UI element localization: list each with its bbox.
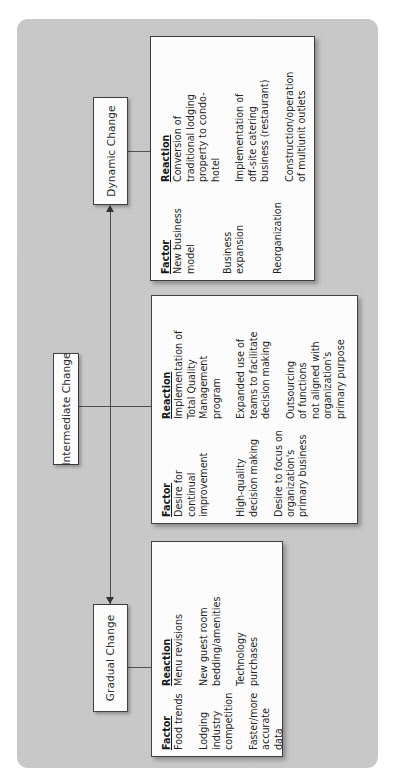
cell-reaction: Construction/operation of multiunit outl… [284,52,309,182]
column-header-reaction: Reaction [161,309,173,419]
cell-factor: Reorganization [272,186,284,274]
category-label-gradual-change: Gradual Change [105,615,117,702]
cell-reaction: New guest room bedding/amenities [198,586,223,686]
category-chip-gradual-change[interactable]: Gradual Change [93,604,128,712]
category-chip-intermediate-change[interactable]: Intermediate Change [53,353,79,465]
column-factor-gradual: Factor Food trends Lodging industry comp… [152,690,283,757]
cell-reaction: Conversion of traditional lodging proper… [172,52,222,182]
category-chip-dynamic-change[interactable]: Dynamic Change [93,97,128,205]
column-header-factor: Factor [161,690,173,750]
table-gradual-change: Factor Food trends Lodging industry comp… [151,541,283,757]
category-label-dynamic-change: Dynamic Change [105,105,117,196]
cell-reaction: Implementation of off-site catering busi… [234,52,271,182]
cell-reaction: Outsourcing of functions not aligned wit… [285,309,347,419]
connector-horizontal-intermediate [78,406,152,407]
cell-reaction: Implementation of Total Quality Manageme… [173,309,223,419]
arrowhead-down-gradual [106,597,114,604]
connector-vertical-main [110,212,111,604]
connector-horizontal-gradual [128,667,151,668]
cell-factor: New business model [172,186,197,274]
cell-reaction: Expanded use of teams to facilitate deci… [235,309,272,419]
table-intermediate-change: Factor Desire for continual improvement … [151,295,358,524]
diagram-panel: Dynamic Change Intermediate Change Gradu… [17,19,378,768]
cell-factor: High-quality decision making [235,423,260,517]
cell-reaction: Technology purchases [235,586,260,686]
column-header-reaction: Reaction [161,586,173,686]
column-factor-dynamic: Factor New business model Business expan… [151,186,309,281]
cell-factor: Desire for continual improvement [173,423,210,517]
column-reaction-gradual: Reaction Menu revisions New guest room b… [152,580,283,690]
column-header-factor: Factor [161,423,173,517]
cell-factor: Desire to focus on organization's primar… [273,423,310,517]
cell-factor: Faster/more accurate data collection [248,690,283,750]
cell-reaction: Menu revisions [173,586,185,686]
column-header-factor: Factor [160,186,172,274]
column-factor-intermediate: Factor Desire for continual improvement … [152,423,347,524]
cell-factor: Lodging industry competition [198,690,235,750]
cell-factor: Food trends [173,690,185,750]
connector-horizontal-dynamic [128,151,151,152]
table-dynamic-change: Factor New business model Business expan… [150,36,315,281]
arrowhead-up-dynamic [106,205,114,212]
cell-factor: Business expansion [222,186,247,274]
category-label-intermediate-change: Intermediate Change [60,352,72,465]
column-reaction-intermediate: Reaction Implementation of Total Quality… [152,303,347,423]
column-reaction-dynamic: Reaction Conversion of traditional lodgi… [151,46,309,186]
column-header-reaction: Reaction [160,52,172,182]
